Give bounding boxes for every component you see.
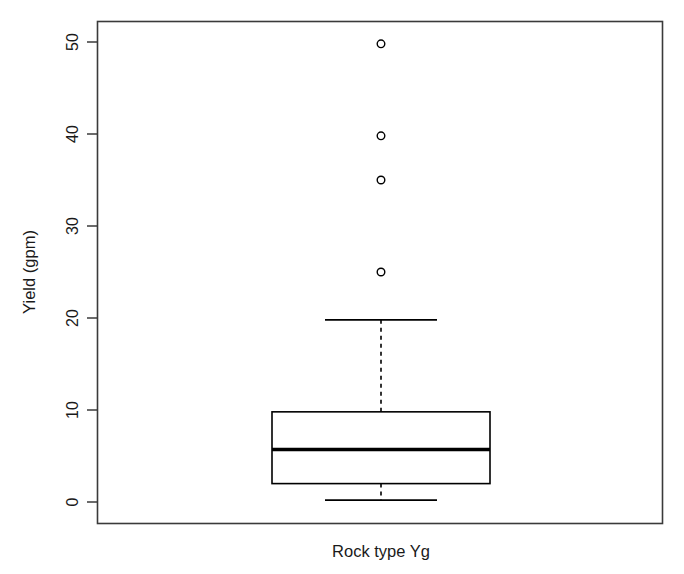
y-tick-label-20: 20 <box>64 309 81 327</box>
plot-canvas: 0 10 20 30 40 50 Yield (gpm) Rock type Y… <box>0 0 684 574</box>
y-axis-title: Yield (gpm) <box>20 230 38 314</box>
y-tick-label-40: 40 <box>64 125 81 143</box>
boxplot-figure: 0 10 20 30 40 50 Yield (gpm) Rock type Y… <box>0 0 684 574</box>
plot-background <box>0 0 684 574</box>
x-axis-title: Rock type Yg <box>332 542 430 560</box>
y-tick-label-30: 30 <box>64 217 81 235</box>
y-tick-label-50: 50 <box>64 33 81 51</box>
y-tick-label-10: 10 <box>64 401 81 419</box>
y-tick-label-0: 0 <box>64 497 81 506</box>
